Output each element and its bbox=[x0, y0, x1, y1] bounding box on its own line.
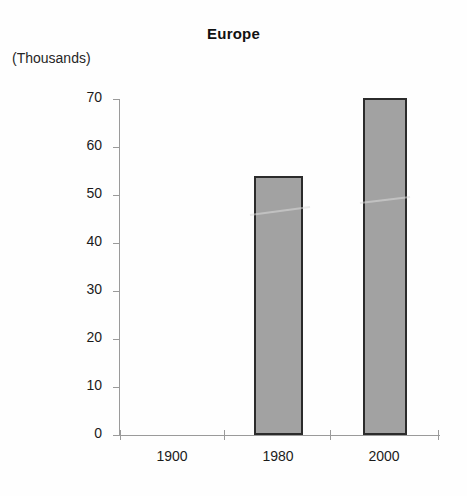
y-axis-tick-label-30: 30 bbox=[86, 281, 102, 297]
plot-area: 70 60 50 40 30 20 10 0 190 bbox=[120, 99, 440, 435]
y-axis-tick-10: 10 bbox=[113, 387, 120, 388]
y-axis-tick-30: 30 bbox=[113, 291, 120, 292]
bar-2000[interactable] bbox=[363, 98, 407, 435]
y-axis-tick-label-10: 10 bbox=[86, 377, 102, 393]
y-axis-tick-label-0: 0 bbox=[94, 425, 102, 441]
y-axis-tick-50: 50 bbox=[113, 195, 120, 196]
y-axis-tick-label-20: 20 bbox=[86, 329, 102, 345]
x-axis-line bbox=[119, 435, 440, 436]
y-axis-tick-40: 40 bbox=[113, 243, 120, 244]
x-axis-tick-2000 bbox=[438, 430, 439, 440]
y-axis-tick-60: 60 bbox=[113, 147, 120, 148]
chart-figure: Europe (Thousands) 70 60 50 40 30 20 10 … bbox=[0, 0, 467, 496]
y-axis-tick-label-40: 40 bbox=[86, 233, 102, 249]
x-axis-label-1980: 1980 bbox=[233, 448, 323, 464]
y-axis-tick-20: 20 bbox=[113, 339, 120, 340]
x-axis-label-1900: 1900 bbox=[127, 448, 217, 464]
y-axis-units-label: (Thousands) bbox=[12, 50, 91, 66]
y-axis-tick-0: 0 bbox=[113, 435, 120, 436]
x-axis-tick-start bbox=[120, 430, 121, 440]
y-axis-tick-label-70: 70 bbox=[86, 89, 102, 105]
chart-title: Europe bbox=[0, 25, 467, 42]
x-axis-label-2000: 2000 bbox=[339, 448, 429, 464]
y-axis-tick-label-60: 60 bbox=[86, 137, 102, 153]
x-axis-tick-1980 bbox=[330, 430, 331, 440]
y-axis-tick-70: 70 bbox=[113, 99, 120, 100]
y-axis-tick-label-50: 50 bbox=[86, 185, 102, 201]
bar-1980[interactable] bbox=[254, 176, 303, 435]
y-axis-line bbox=[119, 99, 120, 436]
x-axis-tick-1900 bbox=[224, 430, 225, 440]
